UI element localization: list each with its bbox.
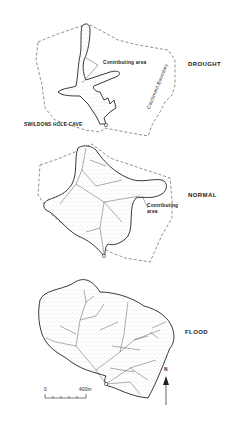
scale-bar [45, 394, 86, 398]
scale-start-label: 0 [44, 387, 47, 392]
contributing-area-label: Contributing area [103, 60, 146, 65]
flood-panel [39, 280, 174, 398]
north-label: N [164, 367, 168, 372]
flood-contributing-area [39, 280, 174, 398]
leader-line [86, 58, 98, 65]
cave-label: SWILDONS HOLE CAVE [24, 122, 82, 127]
cave-entrance-marker [104, 382, 107, 385]
north-arrow-icon [163, 376, 169, 405]
contributing-area-label-2: area [147, 209, 158, 214]
flood-label: FLOOD [185, 329, 208, 335]
drought-label: DROUGHT [188, 61, 221, 67]
cave-entrance-marker [102, 254, 105, 257]
cave-entrance-marker [104, 123, 107, 126]
scale-end-label: 400m [79, 387, 92, 392]
drought-panel [36, 24, 175, 136]
drought-contributing-area [58, 24, 120, 124]
contributing-area-label: Contributing [147, 203, 178, 208]
normal-label: NORMAL [188, 192, 217, 198]
